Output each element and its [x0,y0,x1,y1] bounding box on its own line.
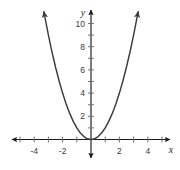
plot-canvas: -4 -2 2 4 x 2 4 6 [0,0,180,170]
y-tick-label-2: 2 [80,111,85,121]
parabola-graph: -4 -2 2 4 x 2 4 6 [0,0,180,170]
x-tick-label-pos2: 2 [117,146,122,156]
x-tick-label-pos4: 4 [145,146,150,156]
y-tick-label-4: 4 [80,88,85,98]
x-tick-label-neg4: -4 [30,146,38,156]
y-tick-label-6: 6 [80,65,85,75]
y-axis-label: y [80,7,86,18]
y-tick-label-10: 10 [76,19,86,29]
x-axis-label: x [168,144,174,155]
x-tick-label-neg2: -2 [59,146,67,156]
y-tick-label-8: 8 [80,42,85,52]
y-axis: 2 4 6 8 10 y [76,7,94,158]
